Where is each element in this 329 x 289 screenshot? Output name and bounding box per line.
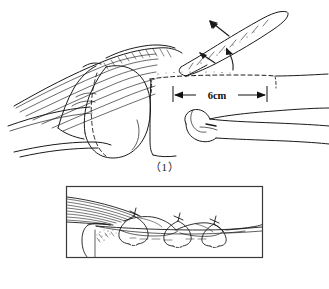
- humeral-head: [84, 66, 150, 158]
- panel-1-drawing: 6cm: [0, 0, 329, 178]
- panel-2-lower-illustration: （2）: [0, 178, 329, 289]
- dimension-6cm: 6cm: [173, 86, 267, 102]
- dimension-arrowhead-right: [257, 92, 266, 99]
- scapula-body: [150, 74, 328, 157]
- graft-shadow-sliver: [130, 238, 206, 240]
- panel-1-caption: （1）: [0, 158, 329, 174]
- panel-2-frame-border: [67, 187, 263, 258]
- arrow-to-graft-upper: [209, 21, 229, 37]
- dimension-label-6cm: 6cm: [208, 90, 227, 101]
- bone-block-hatch: [97, 232, 114, 242]
- suture-knot-3: [202, 216, 226, 248]
- panel-2-drawing: [0, 178, 329, 289]
- left-muscle-belly: [8, 107, 92, 131]
- figure-root: 6cm （1）: [0, 0, 329, 289]
- bone-block-inset: [82, 224, 110, 259]
- bone-block-stipple: [97, 227, 117, 241]
- right-lower-bone: [185, 108, 329, 144]
- panel-1-upper-illustration: 6cm （1）: [0, 0, 329, 178]
- dimension-arrowhead-left: [174, 92, 183, 99]
